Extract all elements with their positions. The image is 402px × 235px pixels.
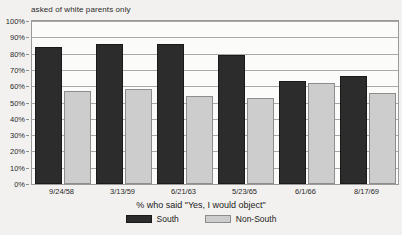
y-axis: 0%10%20%30%40%50%60%70%80%90%100% [0,20,29,185]
bar-group [276,21,337,184]
bar-non-south [125,89,152,184]
chart-subtitle: asked of white parents only [31,5,131,14]
bar-south [96,44,123,184]
bar-south [279,81,306,184]
y-tick-mark [26,135,29,136]
x-axis: 9/24/583/13/596/21/635/23/656/1/668/17/6… [31,187,399,199]
y-tick-mark [26,103,29,104]
bar-group [337,21,398,184]
bar-non-south [308,83,335,184]
y-tick-label: 0% [14,180,25,189]
x-tick-label: 3/13/59 [110,187,135,196]
y-tick-label: 10% [10,163,25,172]
y-tick-mark [26,168,29,169]
y-tick-mark [26,119,29,120]
y-tick-label: 90% [10,33,25,42]
y-tick-mark [26,151,29,152]
bar-south [218,55,245,184]
legend-label: South [157,214,179,224]
y-tick-label: 20% [10,147,25,156]
bar-south [35,47,62,184]
y-tick-label: 70% [10,65,25,74]
legend-entry: South [126,214,179,224]
bar-group [32,21,93,184]
y-tick-label: 30% [10,131,25,140]
plot-area [32,21,398,184]
legend-swatch-icon [126,215,152,223]
y-tick-label: 60% [10,82,25,91]
bar-non-south [64,91,91,184]
y-tick-label: 40% [10,114,25,123]
y-tick-mark [26,37,29,38]
x-tick-label: 6/21/63 [171,187,196,196]
legend-label: Non-South [236,214,277,224]
plot-frame [31,20,399,185]
bar-chart: asked of white parents only 0%10%20%30%4… [0,0,402,235]
bar-group [215,21,276,184]
bar-south [157,44,184,184]
x-tick-label: 5/23/65 [232,187,257,196]
chart-legend: SouthNon-South [0,214,402,224]
x-tick-label: 9/24/58 [49,187,74,196]
y-tick-mark [26,54,29,55]
bar-non-south [186,96,213,184]
y-tick-mark [26,21,29,22]
y-tick-mark [26,86,29,87]
bar-group [154,21,215,184]
legend-swatch-icon [205,215,231,223]
x-tick-label: 6/1/66 [295,187,316,196]
bar-non-south [369,93,396,184]
bar-non-south [247,98,274,184]
bar-group [93,21,154,184]
bar-south [340,76,367,184]
y-tick-label: 100% [6,17,25,26]
legend-entry: Non-South [205,214,277,224]
x-axis-title: % who said "Yes, I would object" [0,200,402,210]
x-tick-label: 8/17/69 [354,187,379,196]
y-tick-mark [26,184,29,185]
y-tick-label: 80% [10,49,25,58]
y-tick-label: 50% [10,98,25,107]
y-tick-mark [26,70,29,71]
